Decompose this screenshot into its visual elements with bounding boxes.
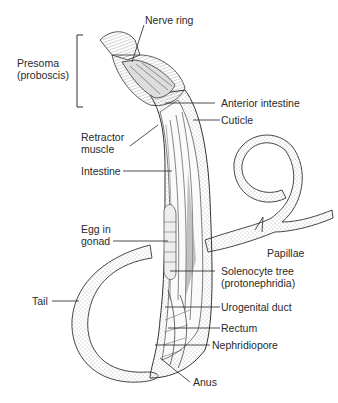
label-urogenital-duct: Urogenital duct bbox=[221, 301, 292, 313]
label-nerve-ring: Nerve ring bbox=[145, 14, 193, 26]
label-anterior-intestine: Anterior intestine bbox=[221, 97, 300, 109]
label-retractor-muscle: Retractor muscle bbox=[81, 131, 124, 155]
label-cuticle: Cuticle bbox=[221, 114, 253, 126]
tail-loop bbox=[72, 245, 158, 382]
trunk-body bbox=[150, 90, 212, 378]
label-solenocyte-tree: Solenocyte tree (protonephridia) bbox=[221, 265, 295, 289]
label-intestine: Intestine bbox=[81, 165, 121, 177]
label-tail: Tail bbox=[32, 295, 48, 307]
egg-gonad bbox=[164, 205, 176, 280]
presoma-bracket bbox=[77, 35, 83, 107]
label-presoma: Presoma (proboscis) bbox=[17, 57, 69, 81]
label-papillae: Papillae bbox=[267, 247, 304, 259]
papillae-tail-coil bbox=[205, 135, 333, 252]
label-nephridiopore: Nephridiopore bbox=[212, 339, 278, 351]
label-anus: Anus bbox=[193, 376, 217, 388]
presoma-proboscis bbox=[100, 32, 185, 106]
label-rectum: Rectum bbox=[221, 322, 257, 334]
label-egg-in-gonad: Egg in gonad bbox=[81, 223, 111, 247]
